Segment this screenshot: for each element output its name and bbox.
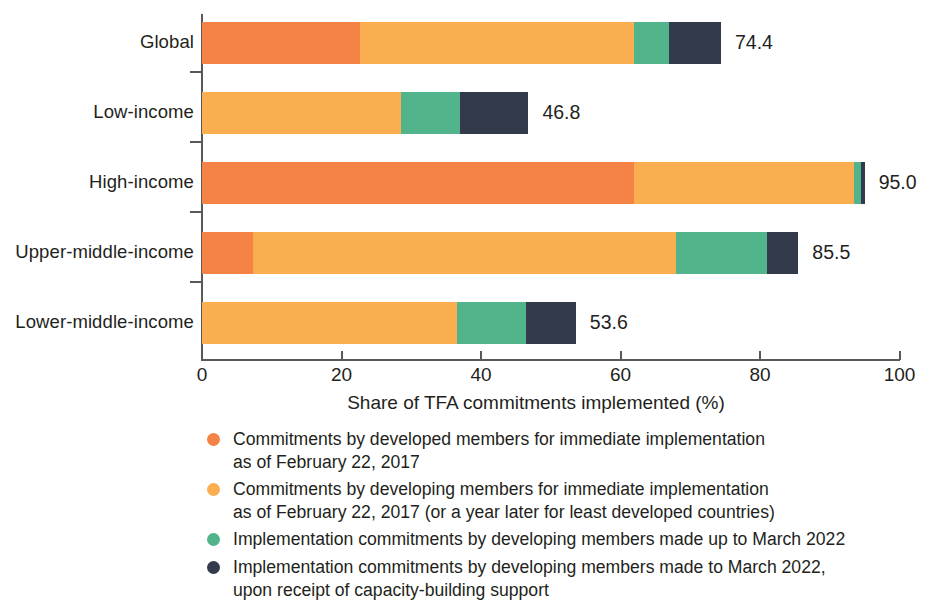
bar-segment-series-4 — [861, 162, 864, 204]
y-axis-tick — [190, 281, 202, 283]
legend-swatch-dot-icon — [207, 533, 220, 546]
legend-label-line2: as of February 22, 2017 (or a year later… — [233, 501, 905, 524]
x-axis-line — [201, 359, 900, 361]
y-axis-tick — [190, 71, 202, 73]
y-axis-tick — [190, 141, 202, 143]
bar-segment-series-2 — [634, 162, 854, 204]
bar-segment-series-4 — [767, 232, 798, 274]
legend-label-line1: Implementation commitments by developing… — [233, 557, 826, 577]
legend-label-line1: Commitments by developed members for imm… — [233, 429, 765, 449]
x-axis-tick-label: 100 — [884, 364, 916, 386]
x-axis-tick — [620, 351, 622, 360]
bar-segment-series-2 — [202, 302, 457, 344]
bar-segment-series-1 — [202, 22, 360, 64]
legend-label-line2: upon receipt of capacity-building suppor… — [233, 579, 905, 602]
legend-item: Implementation commitments by developing… — [205, 556, 905, 601]
bar-segment-series-1 — [202, 162, 634, 204]
stacked-bar-chart: 020406080100 GlobalLow-incomeHigh-income… — [0, 0, 932, 611]
legend-swatch-dot-icon — [207, 483, 220, 496]
bar-segment-series-1 — [202, 232, 253, 274]
x-axis-tick — [341, 351, 343, 360]
x-axis-tick-label: 60 — [610, 364, 631, 386]
y-axis-category-label: High-income — [89, 171, 194, 193]
legend-item: Commitments by developed members for imm… — [205, 428, 905, 473]
x-axis-tick-label: 80 — [749, 364, 770, 386]
x-axis-tick-label: 20 — [331, 364, 352, 386]
bar-segment-series-3 — [676, 232, 767, 274]
x-axis-title-text: Share of TFA commitments implemented (%) — [347, 392, 725, 413]
y-axis-tick — [190, 211, 202, 213]
y-axis-category-label: Low-income — [93, 101, 194, 123]
legend-label-line2: as of February 22, 2017 — [233, 451, 905, 474]
bar-value-label: 53.6 — [590, 311, 628, 334]
bar-segment-series-2 — [360, 22, 634, 64]
plot-area: 020406080100 GlobalLow-incomeHigh-income… — [0, 0, 932, 420]
x-axis-title: Share of TFA commitments implemented (%) — [0, 392, 932, 414]
y-axis-category-label: Lower-middle-income — [15, 311, 194, 333]
legend-item: Commitments by developing members for im… — [205, 478, 905, 523]
legend-swatch-dot-icon — [207, 561, 220, 574]
bar-segment-series-3 — [634, 22, 669, 64]
x-axis-tick — [759, 351, 761, 360]
legend-swatch-dot-icon — [207, 433, 220, 446]
bar-segment-series-4 — [460, 92, 528, 134]
bar-value-label: 95.0 — [879, 171, 917, 194]
bar-segment-series-2 — [202, 92, 401, 134]
y-axis-category-label: Upper-middle-income — [15, 241, 194, 263]
x-axis-tick — [899, 351, 901, 360]
legend-label-line1: Implementation commitments by developing… — [233, 529, 845, 549]
bar-segment-series-3 — [457, 302, 527, 344]
x-axis-tick — [201, 351, 203, 360]
bar-value-label: 74.4 — [735, 31, 773, 54]
x-axis-tick-label: 40 — [470, 364, 491, 386]
x-axis-tick — [480, 351, 482, 360]
y-axis-category-label: Global — [140, 31, 194, 53]
legend-label-line1: Commitments by developing members for im… — [233, 479, 769, 499]
bar-segment-series-3 — [401, 92, 460, 134]
bar-segment-series-4 — [526, 302, 576, 344]
bar-value-label: 46.8 — [542, 101, 580, 124]
chart-legend: Commitments by developed members for imm… — [205, 428, 905, 606]
bar-segment-series-4 — [669, 22, 721, 64]
bar-segment-series-3 — [854, 162, 861, 204]
legend-item: Implementation commitments by developing… — [205, 528, 905, 551]
bar-segment-series-2 — [253, 232, 676, 274]
x-axis-tick-label: 0 — [197, 364, 208, 386]
bar-value-label: 85.5 — [812, 241, 850, 264]
